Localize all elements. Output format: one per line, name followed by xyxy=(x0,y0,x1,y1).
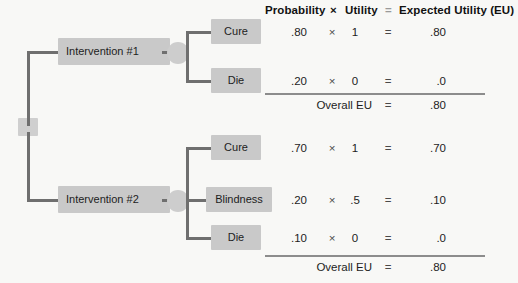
root-branch-line-upper xyxy=(27,51,30,126)
column-header-equals-operator: = xyxy=(385,4,392,16)
expected-utility-die-2: .0 xyxy=(412,232,446,244)
overall-eu-equals-1: = xyxy=(381,99,395,111)
equals-operator-row-2: = xyxy=(381,75,395,87)
column-header-times-operator: × xyxy=(330,4,337,16)
times-operator-row-1: × xyxy=(325,26,339,38)
outcome-box-cure-1[interactable]: Cure xyxy=(211,19,261,44)
utility-blindness-2: .5 xyxy=(346,194,364,206)
overall-eu-value-1: .80 xyxy=(412,99,446,111)
expected-utility-blindness-2: .10 xyxy=(412,194,446,206)
equals-operator-row-3: = xyxy=(381,142,395,154)
outcome-box-cure-2[interactable]: Cure xyxy=(211,135,261,160)
connector-to-die-2 xyxy=(186,237,212,240)
times-operator-row-4: × xyxy=(325,194,339,206)
overall-eu-label-2: Overall EU xyxy=(300,261,372,273)
probability-die-2: .10 xyxy=(275,232,307,244)
connector-to-cure-1 xyxy=(186,31,212,34)
outcome-box-die-1[interactable]: Die xyxy=(211,68,261,93)
overall-eu-label-1: Overall EU xyxy=(300,99,372,111)
times-operator-row-5: × xyxy=(325,232,339,244)
connector-to-cure-2 xyxy=(186,147,212,150)
probability-die-1: .20 xyxy=(275,75,307,87)
intervention-1-box[interactable]: Intervention #1 xyxy=(58,38,170,65)
times-operator-row-2: × xyxy=(325,75,339,87)
expected-utility-cure-2: .70 xyxy=(412,142,446,154)
root-branch-line-lower xyxy=(27,132,30,202)
summation-rule-2 xyxy=(265,255,485,257)
overall-eu-value-2: .80 xyxy=(412,261,446,273)
chance-1-split-line xyxy=(186,31,189,83)
utility-cure-1: 1 xyxy=(348,26,362,38)
chance-2-split-line xyxy=(186,147,189,240)
intervention-2-box[interactable]: Intervention #2 xyxy=(58,186,170,213)
connector-root-to-intervention-1 xyxy=(27,51,59,54)
utility-die-1: 0 xyxy=(348,75,362,87)
connector-to-die-1 xyxy=(186,80,212,83)
decision-tree-diagram: Probability × Utility = Expected Utility… xyxy=(0,0,518,283)
column-header-expected-utility: Expected Utility (EU) xyxy=(399,4,514,16)
connector-root-to-intervention-2 xyxy=(27,199,59,202)
utility-die-2: 0 xyxy=(348,232,362,244)
outcome-box-die-2[interactable]: Die xyxy=(211,225,261,250)
equals-operator-row-5: = xyxy=(381,232,395,244)
probability-blindness-2: .20 xyxy=(275,194,307,206)
probability-cure-1: .80 xyxy=(275,26,307,38)
summation-rule-1 xyxy=(265,93,485,95)
utility-cure-2: 1 xyxy=(348,142,362,154)
column-header-probability: Probability xyxy=(265,4,326,16)
expected-utility-cure-1: .80 xyxy=(412,26,446,38)
equals-operator-row-1: = xyxy=(381,26,395,38)
overall-eu-equals-2: = xyxy=(381,261,395,273)
probability-cure-2: .70 xyxy=(275,142,307,154)
outcome-box-blindness-2[interactable]: Blindness xyxy=(206,187,272,212)
column-header-utility: Utility xyxy=(345,4,378,16)
times-operator-row-3: × xyxy=(325,142,339,154)
equals-operator-row-4: = xyxy=(381,194,395,206)
expected-utility-die-1: .0 xyxy=(412,75,446,87)
